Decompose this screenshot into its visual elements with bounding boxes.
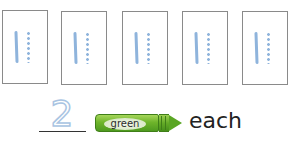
tally-dotted-icon	[267, 32, 270, 64]
crayon-band	[159, 114, 169, 132]
tally-solid-icon	[73, 32, 77, 64]
card-2	[61, 11, 107, 85]
crayon-icon: green	[95, 113, 185, 133]
tally-dotted-icon	[147, 32, 150, 64]
each-label: each	[189, 107, 242, 135]
card-4	[182, 11, 228, 85]
tally-solid-icon	[194, 32, 198, 64]
crayon-tip	[169, 115, 182, 131]
card-5	[242, 11, 288, 85]
crayon-label: green	[104, 118, 146, 130]
crayon-body: green	[95, 114, 159, 132]
answer-digit: 2	[50, 97, 74, 131]
card-3	[122, 11, 168, 85]
tally-dotted-icon	[207, 32, 210, 64]
tally-dotted-icon	[27, 31, 30, 63]
tally-dotted-icon	[86, 32, 89, 64]
tally-solid-icon	[134, 32, 138, 64]
card-1	[2, 10, 48, 84]
tally-solid-icon	[254, 32, 258, 64]
answer-line[interactable]	[39, 131, 86, 132]
tally-solid-icon	[14, 31, 18, 63]
